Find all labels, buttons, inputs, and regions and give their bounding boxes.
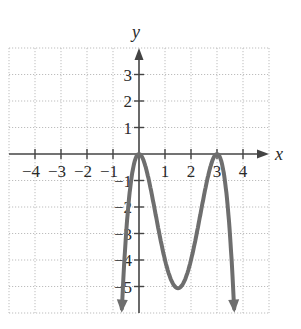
x-tick-label: 2 — [187, 162, 196, 181]
y-tick-label: 2 — [124, 92, 133, 111]
y-tick-label: 1 — [124, 119, 133, 138]
x-axis-label: x — [274, 144, 283, 164]
x-axis-arrow-icon — [257, 150, 269, 159]
x-tick-label: −4 — [22, 162, 41, 181]
function-graph: −4−3−2−11234321−1−2−3−4−5 x y — [0, 0, 301, 329]
y-tick-label: −3 — [114, 225, 132, 244]
y-axis-label: y — [130, 22, 140, 42]
x-tick-label: 1 — [161, 162, 170, 181]
x-tick-label: 3 — [213, 162, 222, 181]
curve-right-arrow-icon — [228, 299, 239, 312]
x-tick-label: −3 — [48, 162, 66, 181]
x-tick-label: −2 — [74, 162, 92, 181]
x-tick-label: 4 — [239, 162, 248, 181]
y-axis-arrow-icon — [135, 48, 144, 60]
y-tick-label: 3 — [124, 66, 133, 85]
curve-left-arrow-icon — [117, 299, 128, 312]
